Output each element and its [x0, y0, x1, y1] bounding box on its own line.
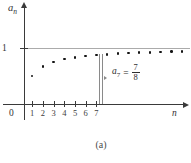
- data-point-n-6: [84, 55, 87, 58]
- x-tick-6: [86, 101, 87, 107]
- x-axis-label: n: [172, 108, 177, 118]
- x-tick-3: [54, 101, 55, 107]
- data-point-n-9: [117, 52, 120, 55]
- sequence-convergence-figure: an 1 0 n 1234567 a7 = 7 8 (a): [0, 0, 191, 163]
- fraction-numerator: 7: [132, 63, 140, 72]
- data-point-n-10: [127, 52, 130, 55]
- fraction-denominator: 8: [132, 72, 140, 82]
- data-point-n-8: [106, 53, 109, 56]
- x-tick-7: [96, 101, 97, 107]
- data-point-n-7: [95, 54, 98, 57]
- x-tick-4: [64, 101, 65, 107]
- a7-var-subscript: 7: [117, 71, 121, 79]
- fraction-seven-eighths: 7 8: [132, 63, 140, 82]
- y-axis-label-subscript: n: [13, 7, 17, 16]
- a7-annotation-variable: a7: [112, 66, 120, 79]
- x-axis-arrow-icon: [183, 102, 189, 108]
- equals-sign: =: [123, 68, 128, 78]
- x-tick-label-7: 7: [90, 109, 102, 118]
- data-point-n-11: [138, 51, 141, 54]
- data-point-n-5: [74, 56, 77, 59]
- data-point-n-13: [159, 51, 162, 54]
- limit-line-y-equals-1: [25, 48, 190, 49]
- y-axis: [24, 6, 25, 120]
- x-axis: [3, 104, 185, 105]
- y-axis-label: an: [8, 3, 17, 17]
- y-axis-tick-at-1: [20, 48, 28, 49]
- x-tick-5: [75, 101, 76, 107]
- y-tick-label-1: 1: [2, 43, 7, 53]
- data-point-n-3: [52, 61, 55, 64]
- origin-label: 0: [9, 108, 14, 118]
- data-point-n-12: [149, 51, 152, 54]
- figure-caption: (a): [88, 139, 114, 150]
- x-tick-2: [43, 101, 44, 107]
- x-tick-1: [32, 101, 33, 107]
- data-point-n-14: [170, 50, 173, 53]
- data-point-n-4: [63, 58, 66, 61]
- a7-bracket-pointer-icon: [104, 76, 107, 80]
- a7-bracket-left-line: [99, 54, 100, 104]
- data-point-n-1: [31, 75, 34, 78]
- data-point-n-2: [42, 65, 45, 68]
- a7-annotation: a7 = 7 8: [112, 63, 140, 82]
- y-axis-arrow-icon: [21, 2, 27, 8]
- data-point-n-15: [181, 50, 184, 53]
